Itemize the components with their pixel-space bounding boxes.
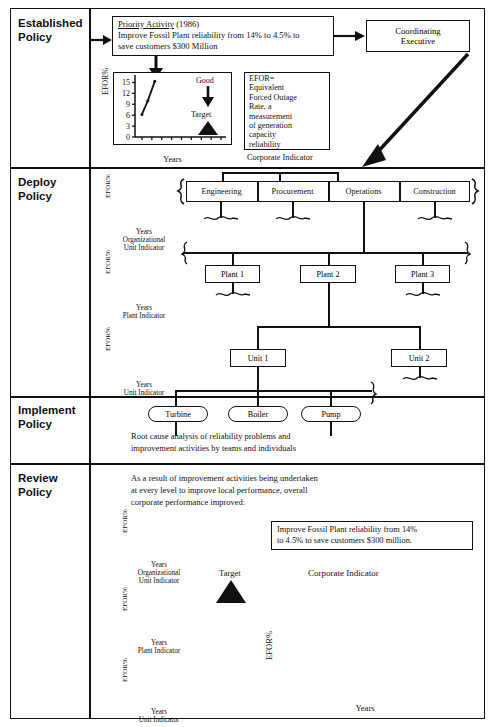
review-chart2-xlabel: Years xyxy=(125,708,193,716)
org-strip-stub-1 xyxy=(222,172,224,181)
unit-2-box[interactable]: Unit 2 xyxy=(391,349,447,367)
boiler-box[interactable]: Boiler xyxy=(228,406,288,422)
coordinating-executive-line2: Executive xyxy=(395,36,440,47)
component-bus xyxy=(175,390,372,392)
top-chart-series-line xyxy=(142,81,155,114)
section-divider-3 xyxy=(10,463,485,465)
plant-stub-2 xyxy=(328,252,330,265)
efor-definition-line-2: Forced Outage xyxy=(249,93,329,102)
efor-definition-line-7: reliability xyxy=(249,140,329,149)
deploy-chart1-ylabel: EFOR% xyxy=(104,250,112,274)
priority-activity-line1: Improve Fossil Plant reliability from 14… xyxy=(118,30,334,41)
bottom-chart-yticks xyxy=(276,588,300,690)
review-chart0-caption2: Unit Indicator xyxy=(118,577,200,585)
coordinating-executive-box: Coordinating Executive xyxy=(366,20,470,52)
review-chart0-xlabel: Years xyxy=(125,561,193,569)
org-strip-stub-2 xyxy=(279,172,281,181)
unit-1-trunk xyxy=(257,367,259,391)
plant-bus xyxy=(183,252,468,254)
good-down-arrow-icon xyxy=(201,86,215,108)
top-chart-ytick-0: 0 xyxy=(126,133,130,142)
org-unit-construction[interactable]: Construction xyxy=(399,181,470,202)
squiggle-engineering-icon xyxy=(204,215,238,223)
unit-1-label: Unit 1 xyxy=(248,354,269,363)
section-label-implement-line2: Policy xyxy=(18,418,76,432)
turbine-box[interactable]: Turbine xyxy=(148,406,208,422)
deploy-chart1-xlabel: Years xyxy=(108,304,180,312)
operations-trunk xyxy=(363,202,365,253)
section-label-established-line1: Established xyxy=(18,17,83,31)
top-chart-ytick-4: 12 xyxy=(122,89,130,98)
corporate-indicator-caption-top: Corporate Indicator xyxy=(247,153,313,162)
unit-1-box[interactable]: Unit 1 xyxy=(230,349,286,367)
squiggle-plant-3-icon xyxy=(406,291,440,299)
review-intro-line2: at every level to improve local performa… xyxy=(131,485,308,496)
review-plant-indicator-chart xyxy=(125,591,193,638)
section-label-deploy: Deploy Policy xyxy=(18,176,56,203)
review-target-label: Target xyxy=(219,568,241,578)
plant-3-label: Plant 3 xyxy=(411,270,434,279)
deploy-chart2-ylabel: EFOR% xyxy=(104,327,112,351)
boiler-riser xyxy=(257,390,259,407)
plant-3-box[interactable]: Plant 3 xyxy=(395,265,450,283)
priority-activity-title-underlined: Priority Activity xyxy=(118,19,174,29)
diagram-page: Established Policy Deploy Policy Impleme… xyxy=(0,0,493,727)
org-unit-procurement[interactable]: Procurement xyxy=(257,181,328,202)
efor-definition-line-0: EFOR= xyxy=(249,74,329,83)
section-divider-2 xyxy=(10,396,485,398)
org-unit-engineering[interactable]: Engineering xyxy=(186,181,257,202)
top-chart-ytick-5: 15 xyxy=(122,78,130,87)
arrow-priority-to-executive xyxy=(334,29,366,43)
plant-stub-1 xyxy=(232,252,234,265)
top-chart-target-label: Target xyxy=(191,110,211,119)
efor-definition-text: EFOR=EquivalentForced OutageRate, ameasu… xyxy=(249,74,329,149)
plant-2-box[interactable]: Plant 2 xyxy=(300,265,356,283)
top-chart-point-2 xyxy=(153,80,156,83)
top-chart-ytick-1: 3 xyxy=(126,122,130,131)
review-result-line1: Improve Fossil Plant reliability from 14… xyxy=(277,524,417,535)
deploy-chart0-ylabel: EFOR% xyxy=(104,174,112,198)
section-label-review-line1: Review xyxy=(18,472,58,486)
plant-1-label: Plant 1 xyxy=(221,270,244,279)
top-chart-ytick-3: 9 xyxy=(126,100,130,109)
review-target-triangle-icon xyxy=(216,580,246,604)
section-label-review: Review Policy xyxy=(18,472,58,499)
section-label-established-line2: Policy xyxy=(18,31,83,45)
section-label-implement: Implement Policy xyxy=(18,404,76,431)
deploy-chart1-caption1: Plant Indicator xyxy=(102,312,186,320)
pump-riser xyxy=(330,390,332,407)
review-chart1-ylabel: EFOR% xyxy=(121,587,129,611)
section-label-deploy-line1: Deploy xyxy=(18,176,56,190)
plant-1-box[interactable]: Plant 1 xyxy=(205,265,260,283)
implement-note-line1: Root cause analysis of reliability probl… xyxy=(131,431,291,442)
efor-definition-line-4: measurement xyxy=(249,112,329,121)
top-chart-ylabel: EFOR% xyxy=(101,68,110,95)
review-chart1-xlabel: Years xyxy=(125,639,193,647)
org-strip-stub-3 xyxy=(337,172,339,181)
plant-bus-right-break-icon xyxy=(462,242,474,264)
left-column-divider xyxy=(89,8,91,719)
section-label-review-line2: Policy xyxy=(18,486,58,500)
arrow-executive-to-deploy xyxy=(350,52,475,170)
review-chart2-ylabel: EFOR% xyxy=(121,658,129,682)
top-chart-ytick-2: 6 xyxy=(126,111,130,120)
squiggle-plant-1-icon xyxy=(216,291,250,299)
deploy-chart2-caption1: Unit Indicator xyxy=(102,389,186,397)
squiggle-unit-2-icon xyxy=(403,375,437,383)
review-intro-line1: As a result of improvement activities be… xyxy=(131,473,318,484)
top-chart-good-label: Good xyxy=(196,76,214,85)
pump-box[interactable]: Pump xyxy=(301,406,361,422)
review-chart0-caption1: Organizational xyxy=(118,569,200,577)
top-chart-point-0 xyxy=(140,113,143,116)
deploy-chart0-xlabel: Years xyxy=(108,228,180,236)
right-break-zigzag-icon xyxy=(468,179,484,204)
bottom-chart-ylabel: EFOR% xyxy=(264,631,274,660)
deploy-chart0-caption1: Organizational xyxy=(102,236,186,244)
unit-2-label: Unit 2 xyxy=(409,354,430,363)
deploy-org-unit-indicator-chart xyxy=(108,177,180,227)
review-result-line2: to 4.5% to save customers $300 million. xyxy=(277,535,412,546)
org-unit-operations[interactable]: Operations xyxy=(328,181,399,202)
review-chart1-caption1: Plant Indicator xyxy=(118,647,200,655)
plant-bus-left-break-icon xyxy=(178,242,190,264)
bottom-chart-xlabel: Years xyxy=(300,703,430,713)
